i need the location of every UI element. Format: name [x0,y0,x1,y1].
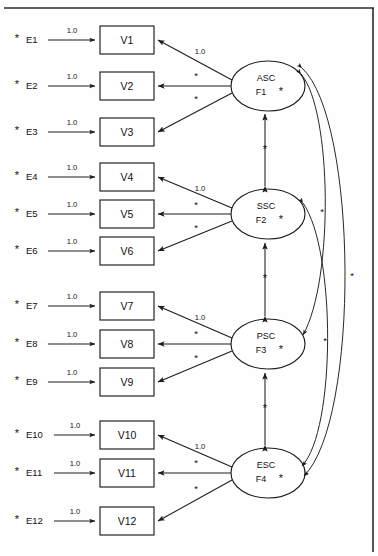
error-star-e10: * [15,427,20,439]
error-weight-e2: 1.0 [67,72,78,81]
error-label-e10: E10 [26,429,43,440]
error-weight-e7: 1.0 [67,292,78,301]
error-label-e5: E5 [26,208,38,219]
error-star-e8: * [15,336,20,348]
correlation-curve-f1-f3 [301,74,325,335]
loading-label-f2-v4: 1.0 [195,184,206,193]
indicator-label-v10: V10 [118,429,137,441]
loading-label-f3-v9: * [194,352,198,363]
error-label-e8: E8 [26,338,38,349]
correlation-label-f3-f4: * [263,402,268,414]
error-weight-e6: 1.0 [67,237,78,246]
factor-name-f2: SSC [257,201,276,211]
error-star-e6: * [15,243,20,255]
diagram-canvas: * E1 1.0 V1 * E2 1.0 V2 * E3 1.0 V3 1.0 … [0,0,378,556]
factor-ellipse-f1 [231,61,305,111]
indicator-label-v12: V12 [118,515,137,527]
error-weight-e1: 1.0 [67,26,78,35]
error-label-e4: E4 [26,171,38,182]
factor-code-f4: F4 [256,474,267,484]
correlation-label-f2-f3: * [263,272,268,284]
indicator-label-v8: V8 [121,338,134,350]
error-weight-e11: 1.0 [70,459,81,468]
loading-label-f3-v7: 1.0 [195,313,206,322]
error-weight-e5: 1.0 [67,200,78,209]
factor-code-f2: F2 [256,215,267,225]
error-weight-e9: 1.0 [67,368,78,377]
indicator-label-v11: V11 [118,467,136,479]
error-label-e2: E2 [26,80,38,91]
factor-ellipse-f3 [231,319,305,369]
factor-code-f3: F3 [256,345,267,355]
error-star-e1: * [15,32,20,44]
error-star-e3: * [15,124,20,136]
factor-name-f3: PSC [257,331,276,341]
indicator-label-v1: V1 [121,34,134,46]
correlation-label-f1-f4: * [350,270,354,281]
loading-label-f4-v10: 1.0 [195,442,206,451]
loading-label-f4-v12: * [194,483,198,494]
indicator-label-v5: V5 [121,208,134,220]
error-star-e2: * [15,78,20,90]
correlation-label-f1-f3: * [320,206,324,217]
sem-path-diagram: * E1 1.0 V1 * E2 1.0 V2 * E3 1.0 V3 1.0 … [0,0,378,556]
indicator-label-v3: V3 [121,126,134,138]
indicator-label-v7: V7 [121,300,134,312]
loading-label-f3-v8: * [194,328,198,339]
loading-label-f2-v6: * [194,222,198,233]
error-star-e4: * [15,169,20,181]
factor-code-f1: F1 [256,87,267,97]
correlation-label-f1-f2: * [263,143,268,155]
factor-name-f4: ESC [257,460,276,470]
indicator-label-v4: V4 [121,171,134,183]
error-label-e7: E7 [26,300,38,311]
loading-label-f1-v2: * [194,70,198,81]
loading-label-f2-v5: * [194,199,198,210]
error-weight-e10: 1.0 [70,421,81,430]
error-label-e12: E12 [26,515,43,526]
factor-star-f3: * [279,343,284,355]
indicator-label-v9: V9 [121,376,134,388]
error-label-e9: E9 [26,376,38,387]
error-star-e12: * [15,513,20,525]
error-star-e11: * [15,465,20,477]
error-label-e6: E6 [26,245,38,256]
indicator-label-v2: V2 [121,80,134,92]
factor-name-f1: ASC [257,73,276,83]
error-star-e7: * [15,298,20,310]
error-weight-e4: 1.0 [67,163,78,172]
error-star-e9: * [15,374,20,386]
error-weight-e8: 1.0 [67,330,78,339]
error-label-e1: E1 [26,34,38,45]
loading-label-f1-v3: * [194,93,198,104]
loading-label-f4-v11: * [194,457,198,468]
factor-star-f2: * [279,213,284,225]
error-weight-e3: 1.0 [67,118,78,127]
factor-ellipse-f4 [231,448,305,498]
factor-ellipse-f2 [231,189,305,239]
error-label-e3: E3 [26,126,38,137]
error-star-e5: * [15,206,20,218]
factor-star-f1: * [279,85,284,97]
correlation-label-f2-f4: * [323,335,327,346]
factor-star-f4: * [279,472,284,484]
error-label-e11: E11 [26,467,42,478]
indicator-label-v6: V6 [121,245,134,257]
loading-label-f1-v1: 1.0 [195,47,206,56]
error-weight-e12: 1.0 [70,507,81,516]
